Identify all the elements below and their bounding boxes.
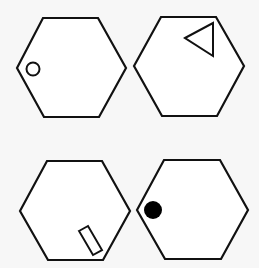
panel-top-left: [17, 18, 126, 117]
hexagon: [20, 161, 130, 260]
hexagon: [17, 18, 126, 117]
panel-bottom-right: [137, 160, 248, 259]
filled-circle-mark: [144, 201, 162, 219]
panel-top-right: [134, 17, 244, 116]
hexagon: [134, 17, 244, 116]
panel-bottom-left: [20, 161, 130, 260]
puzzle-figure: [0, 0, 259, 268]
